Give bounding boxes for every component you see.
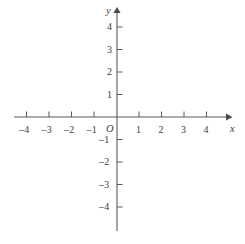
y-tick-label-2: 2 <box>107 67 112 77</box>
x-tick-label--2: –2 <box>64 125 74 135</box>
y-tick-label--1: –1 <box>99 135 109 145</box>
x-axis-arrowhead <box>226 113 233 120</box>
x-tick-label-1: 1 <box>136 125 141 135</box>
x-axis-label: x <box>230 124 235 134</box>
x-tick-label--1: –1 <box>87 125 97 135</box>
x-tick-label-2: 2 <box>159 125 164 135</box>
y-axis-label: y <box>106 6 111 16</box>
y-tick-label--4: –4 <box>99 202 109 212</box>
x-tick-label--4: –4 <box>19 125 29 135</box>
y-tick-label-3: 3 <box>107 45 112 55</box>
x-tick-label-3: 3 <box>181 125 186 135</box>
y-tick-label--3: –3 <box>99 180 109 190</box>
x-tick-label--3: –3 <box>42 125 52 135</box>
coordinate-plane-figure: –4 –3 –2 –1 1 2 3 4 4 3 2 1 –1 –2 –3 –4 … <box>0 0 245 244</box>
y-tick-label-1: 1 <box>107 90 112 100</box>
y-tick-label-4: 4 <box>107 22 112 32</box>
origin-label: O <box>106 124 114 134</box>
y-tick-label--2: –2 <box>99 157 109 167</box>
x-tick-label-4: 4 <box>204 125 209 135</box>
y-axis-arrowhead <box>113 7 120 13</box>
axes-svg <box>0 0 245 244</box>
